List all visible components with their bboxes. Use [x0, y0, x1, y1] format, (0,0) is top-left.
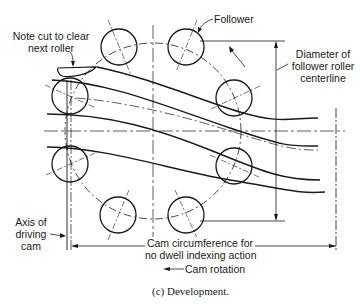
roller-axis-line — [108, 20, 131, 75]
note-cut-bulge — [58, 67, 96, 77]
axis-line-2: driving — [8, 228, 54, 240]
arrow-head — [274, 41, 278, 48]
circumference-line-2: no dwell indexing action — [145, 249, 255, 261]
cam-rotation-label: Cam rotation — [185, 263, 245, 275]
arrow-head — [71, 244, 78, 248]
arrow-head — [163, 267, 170, 271]
arrow-head — [274, 214, 278, 221]
circumference-line-1: Cam circumference for — [145, 237, 255, 249]
follower-label: Follower — [214, 13, 254, 25]
diameter-line-1: Diameter of — [287, 48, 359, 60]
arrow-head — [71, 61, 75, 67]
axis-line-3: cam — [8, 240, 54, 252]
arrow-head — [60, 233, 66, 238]
note-cut-line-1: Note cut to clear — [12, 30, 90, 42]
cam-groove-lower-edge-2 — [47, 147, 325, 193]
diameter-line-2: follower roller — [287, 60, 359, 72]
note-cut-label: Note cut to clear next roller — [12, 30, 90, 54]
figure-caption: (c) Development. — [152, 285, 229, 297]
cam-groove-upper-edge — [97, 67, 318, 120]
note-cut-line-2: next roller — [12, 42, 90, 54]
cam-groove-centerline — [76, 98, 318, 150]
roller-circle — [168, 197, 204, 233]
roller-circle — [100, 197, 136, 233]
arrow-head — [329, 244, 336, 248]
diameter-label: Diameter of follower roller centerline — [287, 48, 359, 84]
axis-line-1: Axis of — [8, 216, 54, 228]
circumference-label: Cam circumference for no dwell indexing … — [145, 237, 255, 261]
axis-label: Axis of driving cam — [8, 216, 54, 252]
cam-groove-upper-edge-2 — [52, 80, 318, 146]
diameter-line-3: centerline — [287, 72, 359, 84]
